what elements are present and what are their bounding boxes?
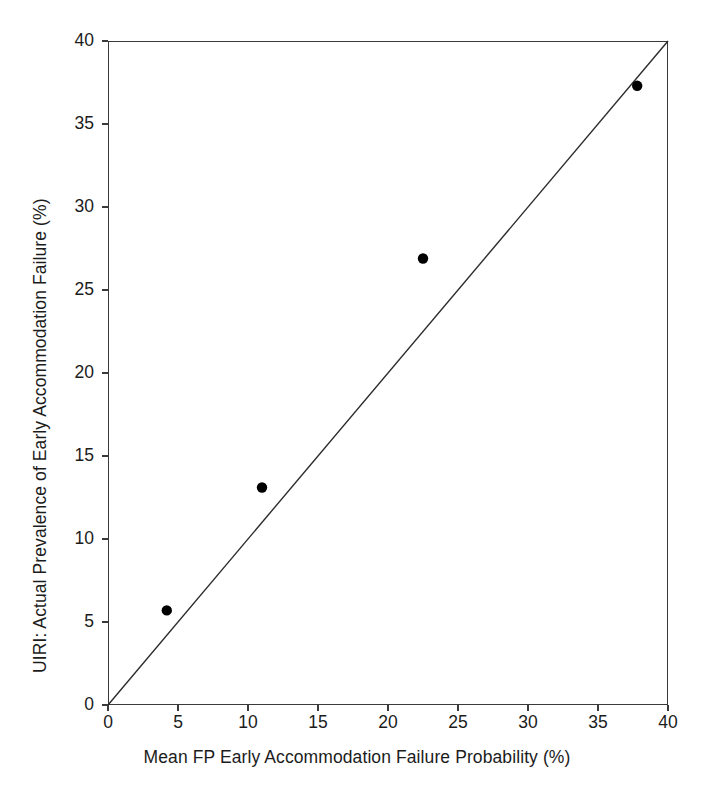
y-tick-label: 40 xyxy=(42,32,94,50)
x-tick-mark xyxy=(387,705,388,711)
x-tick-mark xyxy=(317,705,318,711)
x-tick-label: 35 xyxy=(568,714,628,732)
x-axis-label: Mean FP Early Accommodation Failure Prob… xyxy=(0,747,714,768)
y-tick-mark xyxy=(102,538,108,539)
y-tick-mark xyxy=(102,455,108,456)
y-tick-mark xyxy=(102,289,108,290)
x-tick-label: 25 xyxy=(428,714,488,732)
x-tick-mark xyxy=(527,705,528,711)
scatter-plot-figure: 05101520253035400510152025303540 Mean FP… xyxy=(0,0,714,796)
x-tick-mark xyxy=(457,705,458,711)
x-tick-label: 30 xyxy=(498,714,558,732)
x-tick-label: 20 xyxy=(358,714,418,732)
x-tick-mark xyxy=(177,705,178,711)
y-tick-label: 35 xyxy=(42,115,94,133)
x-tick-label: 5 xyxy=(148,714,208,732)
y-tick-mark xyxy=(102,704,108,705)
x-tick-label: 15 xyxy=(288,714,348,732)
y-tick-mark xyxy=(102,206,108,207)
y-tick-mark xyxy=(102,40,108,41)
y-tick-mark xyxy=(102,123,108,124)
y-tick-mark xyxy=(102,621,108,622)
x-tick-mark xyxy=(667,705,668,711)
x-tick-label: 40 xyxy=(638,714,698,732)
x-tick-label: 10 xyxy=(218,714,278,732)
plot-frame xyxy=(108,41,668,705)
y-tick-label: 0 xyxy=(42,696,94,714)
x-tick-mark xyxy=(597,705,598,711)
y-axis-label-container: UIRI: Actual Prevalence of Early Accommo… xyxy=(0,0,40,760)
y-tick-mark xyxy=(102,372,108,373)
x-tick-mark xyxy=(107,705,108,711)
y-axis-label: UIRI: Actual Prevalence of Early Accommo… xyxy=(30,198,51,673)
x-tick-label: 0 xyxy=(78,714,138,732)
x-tick-mark xyxy=(247,705,248,711)
